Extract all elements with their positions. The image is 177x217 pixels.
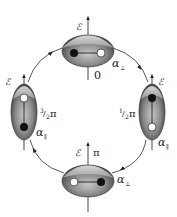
pol-label-left: α [36, 126, 44, 139]
filled-dot-icon [97, 178, 105, 186]
state-bottom: ℰ π α ⊥ [62, 144, 131, 212]
pol-sub-bottom: ⊥ [125, 180, 131, 187]
field-label-bottom: ℰ [75, 148, 82, 158]
arc-bottom-to-left [30, 140, 64, 173]
filled-dot-icon [20, 123, 28, 131]
phase-label-bottom: π [93, 147, 100, 158]
state-right: ℰ 1 / 2 π α ∥ [119, 76, 169, 150]
open-dot-icon [70, 178, 78, 186]
state-left: ℰ 3 / 2 π α ∥ [5, 76, 57, 150]
filled-dot-icon [148, 94, 156, 102]
arc-left-to-top [28, 48, 62, 82]
phase-label-top: 0 [94, 69, 101, 82]
field-label-top: ℰ [76, 22, 83, 32]
phase-sym-right: π [129, 108, 136, 119]
pol-sub-left: ∥ [44, 133, 47, 140]
open-dot-icon [97, 49, 105, 57]
pol-label-right: α [158, 136, 166, 149]
state-top: ℰ 0 α ⊥ [62, 18, 126, 82]
pol-sub-right: ∥ [166, 143, 169, 150]
open-dot-icon [148, 123, 156, 131]
pol-label-bottom: α [117, 173, 125, 186]
pol-sub-top: ⊥ [120, 64, 126, 71]
field-label-right: ℰ [158, 77, 165, 87]
pol-label-top: α [112, 57, 120, 70]
field-label-left: ℰ [5, 77, 12, 87]
phase-sym-left: π [50, 108, 57, 119]
arc-right-to-bottom [112, 140, 146, 173]
open-dot-icon [20, 94, 28, 102]
rotation-cycle-diagram: ℰ 0 α ⊥ ℰ 3 / 2 π α ∥ ℰ 1 / 2 π α ∥ [0, 0, 177, 217]
filled-dot-icon [70, 49, 78, 57]
